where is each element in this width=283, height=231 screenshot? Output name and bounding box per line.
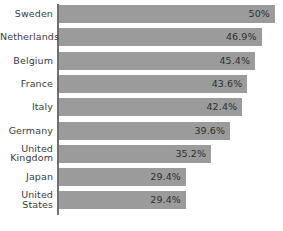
bar-track: 45.4% xyxy=(59,52,255,70)
bar-track: 42.4% xyxy=(59,98,242,116)
bar-track: 35.2% xyxy=(59,145,211,163)
bar-row: France43.6% xyxy=(0,75,283,93)
bar-row: Japan29.4% xyxy=(0,168,283,186)
plot-area: Sweden50%Netherlands46.9%Belgium45.4%Fra… xyxy=(0,0,283,231)
bar-row: Belgium45.4% xyxy=(0,52,283,70)
category-label: Belgium xyxy=(0,56,53,66)
category-label: United Kingdom xyxy=(0,144,53,163)
bar-row: Netherlands46.9% xyxy=(0,28,283,46)
category-label: Netherlands xyxy=(0,32,53,42)
bar-track: 29.4% xyxy=(59,191,186,209)
bar-row: Sweden50% xyxy=(0,5,283,23)
bar[interactable] xyxy=(59,5,275,23)
bar-value-label: 45.4% xyxy=(219,56,250,66)
bar-value-label: 46.9% xyxy=(226,32,257,42)
bar-track: 50% xyxy=(59,5,275,23)
bar-row: Germany39.6% xyxy=(0,122,283,140)
bar-row: United Kingdom35.2% xyxy=(0,145,283,163)
bar-row: Italy42.4% xyxy=(0,98,283,116)
category-label: Sweden xyxy=(0,9,53,19)
bar-value-label: 42.4% xyxy=(206,102,237,112)
category-label: Japan xyxy=(0,172,53,182)
bar-value-label: 29.4% xyxy=(150,172,181,182)
bar-track: 43.6% xyxy=(59,75,247,93)
bar-value-label: 39.6% xyxy=(194,126,225,136)
bar-value-label: 50% xyxy=(249,9,270,19)
bar-track: 39.6% xyxy=(59,122,230,140)
bar-row: United States29.4% xyxy=(0,191,283,209)
bar-value-label: 29.4% xyxy=(150,195,181,205)
category-label: France xyxy=(0,79,53,89)
bar-track: 29.4% xyxy=(59,168,186,186)
bar-value-label: 43.6% xyxy=(212,79,243,89)
bar-chart: Sweden50%Netherlands46.9%Belgium45.4%Fra… xyxy=(0,0,283,231)
bar-value-label: 35.2% xyxy=(175,149,206,159)
category-label: Italy xyxy=(0,102,53,112)
category-label: United States xyxy=(0,190,53,209)
bar-track: 46.9% xyxy=(59,28,262,46)
category-label: Germany xyxy=(0,126,53,136)
